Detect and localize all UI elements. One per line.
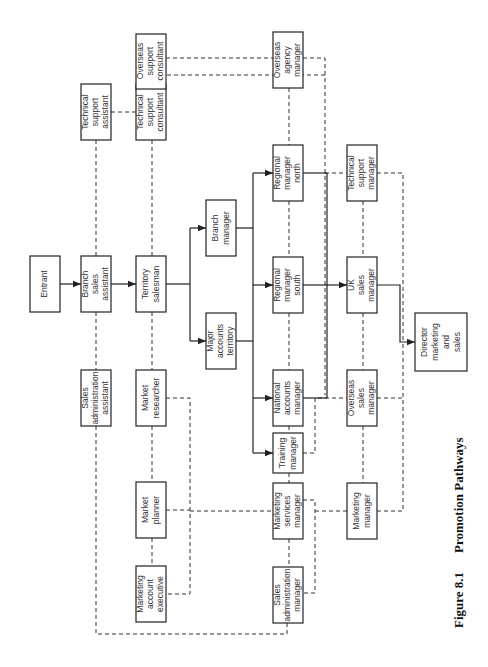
- node-label: administration: [90, 371, 100, 424]
- node-label: manager: [282, 156, 292, 190]
- node-label: support: [145, 46, 155, 75]
- figure-caption: Figure 8.1 Promotion Pathways: [451, 437, 466, 628]
- node-label: Marketing: [135, 575, 145, 613]
- node-technical-support-manager: Technical support manager: [346, 145, 377, 201]
- node-sales-administration-assistant: Sales administration assistant: [80, 370, 111, 426]
- dashed-connectors: [96, 58, 403, 634]
- node-label: Sales: [80, 387, 90, 408]
- node-label: manager: [292, 578, 302, 612]
- promotion-pathways-diagram: Entrant Branch sales assistant Territory…: [0, 0, 488, 667]
- node-technical-support-consultant: Technical support consultant: [135, 84, 166, 140]
- node-market-planner: Market planner: [136, 482, 166, 538]
- node-label: assistant: [100, 95, 110, 129]
- node-entrant: Entrant: [30, 256, 60, 312]
- node-label: manager: [366, 381, 376, 415]
- node-label: north: [292, 163, 302, 183]
- node-market-researcher: Market researcher: [136, 370, 166, 426]
- node-label: sales: [356, 275, 366, 295]
- node-label: support: [90, 97, 100, 126]
- node-label: Training: [277, 438, 287, 469]
- node-label: south: [292, 274, 302, 295]
- node-label: salesman: [151, 266, 161, 303]
- node-technical-support-assistant: Technical support assistant: [80, 84, 111, 140]
- node-label: manager: [292, 494, 302, 528]
- node-branch-manager: Branch manager: [206, 200, 236, 256]
- figure-number: Figure 8.1: [451, 572, 466, 628]
- node-label: Market: [140, 496, 150, 523]
- node-label: manager: [292, 43, 302, 77]
- node-overseas-agency-manager: Overseas agency manager: [272, 32, 303, 88]
- node-label: manager: [282, 268, 292, 302]
- node-label: Marketing: [351, 492, 361, 530]
- node-sales-administration-manager: Sales administration manager: [272, 567, 303, 623]
- node-marketing-manager: Marketing manager: [347, 483, 377, 539]
- node-label: manager: [288, 436, 298, 470]
- node-label: territory: [225, 326, 235, 356]
- node-label: Market: [140, 384, 150, 411]
- node-label: Director: [419, 327, 429, 357]
- node-label: Branch: [210, 214, 220, 241]
- node-overseas-sales-manager: Overseas sales manager: [346, 370, 377, 426]
- node-label: accounts: [215, 324, 225, 358]
- node-label: Regional: [272, 156, 282, 190]
- node-regional-manager-north: Regional manager north: [272, 145, 303, 201]
- node-label: and: [441, 335, 451, 349]
- node-label: support: [356, 158, 366, 187]
- node-overseas-support-consultant: Overseas support consultant: [135, 34, 166, 89]
- node-label: Overseas: [346, 380, 356, 416]
- node-marketing-account-executive: Marketing account executive: [135, 566, 166, 622]
- node-label: manager: [366, 156, 376, 190]
- node-label: Overseas: [272, 42, 282, 78]
- node-director-marketing-and-sales: Director marketing and sales: [415, 313, 467, 371]
- node-label: sales: [356, 388, 366, 408]
- node-label: agency: [282, 46, 292, 74]
- node-regional-manager-south: Regional manager south: [272, 257, 303, 313]
- node-label: administration: [282, 568, 292, 621]
- node-label: marketing: [430, 323, 440, 361]
- node-territory-salesman: Territory salesman: [136, 256, 166, 312]
- node-label: Technical: [135, 94, 145, 130]
- node-label: account: [145, 578, 155, 608]
- node-label: consultant: [155, 41, 165, 80]
- node-label: Marketing: [272, 492, 282, 530]
- node-label: UK: [346, 279, 356, 291]
- node-label: consultant: [155, 92, 165, 131]
- node-label: Major: [205, 330, 215, 351]
- node-uk-sales-manager: UK sales manager: [346, 257, 377, 313]
- node-label: Entrant: [39, 270, 49, 298]
- node-label: Overseas: [135, 43, 145, 79]
- node-label: assistant: [100, 381, 110, 415]
- node-label: Sales: [272, 584, 282, 605]
- node-label: Regional: [272, 268, 282, 302]
- node-label: researcher: [151, 378, 161, 419]
- node-label: manager: [292, 381, 302, 415]
- figure-title: Promotion Pathways: [451, 437, 466, 553]
- node-label: planner: [151, 496, 161, 525]
- node-label: sales: [452, 332, 462, 352]
- node-label: Technical: [346, 155, 356, 191]
- node-label: National: [272, 382, 282, 413]
- node-marketing-services-manager: Marketing services manager: [272, 483, 303, 539]
- node-label: accounts: [282, 381, 292, 415]
- node-label: manager: [221, 211, 231, 245]
- node-major-accounts-territory: Major accounts territory: [205, 313, 236, 369]
- node-branch-sales-assistant: Branch sales assistant: [80, 256, 111, 312]
- node-national-accounts-manager: National accounts manager: [272, 370, 303, 426]
- node-label: Branch: [80, 270, 90, 297]
- node-label: sales: [90, 274, 100, 294]
- node-label: services: [282, 495, 292, 526]
- node-training-manager: Training manager: [273, 433, 303, 473]
- node-label: Technical: [80, 94, 90, 130]
- node-label: Territory: [140, 268, 150, 299]
- node-label: manager: [366, 268, 376, 302]
- node-label: support: [145, 97, 155, 126]
- node-label: executive: [155, 576, 165, 612]
- node-label: manager: [362, 494, 372, 528]
- node-label: assistant: [100, 267, 110, 301]
